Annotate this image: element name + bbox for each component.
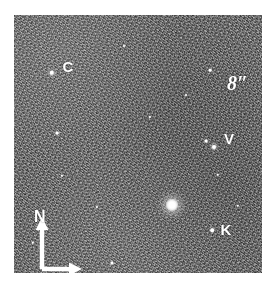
source-label-c: C bbox=[63, 59, 74, 74]
field-star bbox=[205, 140, 208, 143]
field-star bbox=[217, 174, 219, 176]
field-star bbox=[123, 45, 125, 47]
source-marker-v bbox=[212, 145, 216, 149]
field-star bbox=[209, 69, 212, 72]
field-star bbox=[96, 206, 98, 208]
scale-bar-label: 8″ bbox=[227, 73, 248, 93]
field-star bbox=[185, 94, 187, 96]
noise-texture-layer-1 bbox=[14, 15, 262, 273]
noise-texture-layer-2 bbox=[14, 15, 262, 273]
noise-mottling-layer bbox=[14, 15, 262, 273]
sky-field-image: CVK 8″ N bbox=[14, 15, 262, 273]
field-star bbox=[56, 132, 59, 135]
source-marker-c bbox=[50, 71, 54, 75]
field-star bbox=[32, 242, 34, 244]
noise-texture-layer-3 bbox=[14, 15, 262, 273]
astronomical-figure: CVK 8″ N bbox=[0, 0, 277, 285]
field-star bbox=[237, 205, 239, 207]
source-label-k: K bbox=[221, 222, 232, 237]
field-star bbox=[111, 262, 114, 265]
field-star bbox=[61, 175, 63, 177]
source-label-v: V bbox=[224, 131, 234, 146]
field-star bbox=[149, 116, 151, 118]
compass-rose bbox=[32, 211, 84, 273]
bright-point-source bbox=[166, 199, 179, 212]
compass-north-label: N bbox=[34, 209, 46, 225]
source-marker-k bbox=[210, 228, 214, 232]
